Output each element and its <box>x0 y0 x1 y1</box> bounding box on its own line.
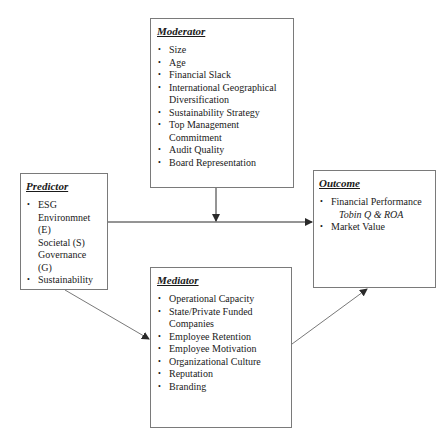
outcome-box: Outcome Financial Performance Tobin Q & … <box>313 170 436 288</box>
list-item: Audit Quality <box>157 144 287 157</box>
list-item: Top Management Commitment <box>157 119 287 144</box>
predictor-title: Predictor <box>26 180 102 192</box>
moderator-box: Moderator Size Age Financial Slack Inter… <box>150 18 294 188</box>
list-item: International Geographical <box>157 82 287 95</box>
list-item: Age <box>157 57 287 70</box>
mediator-title: Mediator <box>157 274 285 286</box>
list-item: Financial Slack <box>157 69 287 82</box>
list-item-sub: Governance (G) <box>26 249 102 274</box>
list-item-continuation: Companies <box>157 318 285 331</box>
list-item: ESG <box>26 199 102 212</box>
list-item: Size <box>157 44 287 57</box>
outcome-title: Outcome <box>319 177 430 189</box>
list-item-sub: Societal (S) <box>26 237 102 250</box>
predictor-box: Predictor ESG Environmnet (E) Societal (… <box>20 173 108 290</box>
list-item: Branding <box>157 381 285 394</box>
list-item-continuation: Diversification <box>157 94 287 107</box>
list-item: Sustainability <box>26 274 102 287</box>
list-item: Reputation <box>157 368 285 381</box>
list-item: Employee Motivation <box>157 343 285 356</box>
list-item: Board Representation <box>157 157 287 170</box>
predictor-to-mediator-arrow <box>65 290 149 339</box>
list-item: Market Value <box>319 221 430 234</box>
list-item: Financial Performance <box>319 196 430 209</box>
moderator-title: Moderator <box>157 25 287 37</box>
mediator-box: Mediator Operational Capacity State/Priv… <box>150 267 292 428</box>
list-item: Organizational Culture <box>157 356 285 369</box>
mediator-to-outcome-arrow <box>292 289 367 344</box>
list-item-sub: Tobin Q & ROA <box>319 209 430 222</box>
list-item: State/Private Funded <box>157 306 285 319</box>
list-item: Employee Retention <box>157 331 285 344</box>
list-item: Sustainability Strategy <box>157 107 287 120</box>
list-item: Operational Capacity <box>157 293 285 306</box>
list-item-sub: Environmnet (E) <box>26 212 102 237</box>
